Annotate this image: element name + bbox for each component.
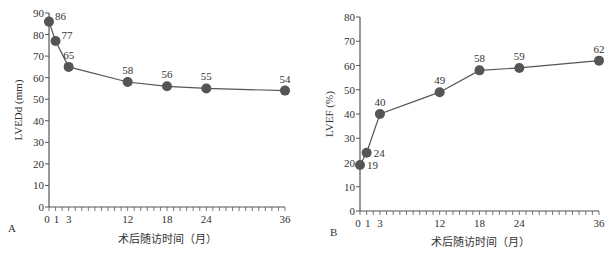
y-tick-label: 0 bbox=[350, 205, 356, 217]
data-point bbox=[362, 148, 372, 158]
y-tick-label: 70 bbox=[344, 35, 356, 47]
data-point bbox=[280, 86, 290, 96]
data-point bbox=[435, 87, 445, 97]
y-tick-label: 10 bbox=[344, 181, 356, 193]
data-line bbox=[360, 61, 599, 165]
panel-label: B bbox=[330, 226, 337, 238]
data-point bbox=[51, 36, 61, 46]
chart-panel-a: 0102030405060708090013121824368677655856… bbox=[8, 7, 291, 245]
data-point bbox=[475, 65, 485, 75]
x-tick-label: 1 bbox=[54, 213, 60, 225]
y-tick-label: 40 bbox=[344, 108, 356, 120]
x-tick-label: 0 bbox=[44, 213, 50, 225]
data-label: 19 bbox=[367, 159, 379, 171]
x-tick-label: 12 bbox=[122, 213, 133, 225]
y-tick-label: 90 bbox=[33, 7, 45, 19]
panel-label: A bbox=[8, 222, 16, 234]
y-tick-label: 70 bbox=[33, 50, 45, 62]
x-tick-label: 24 bbox=[514, 217, 526, 229]
x-tick-label: 24 bbox=[201, 213, 213, 225]
x-tick-label: 12 bbox=[434, 217, 445, 229]
data-point bbox=[64, 62, 74, 72]
y-tick-label: 60 bbox=[33, 72, 45, 84]
chart-panel-b: 0102030405060708001312182436192440495859… bbox=[323, 11, 605, 248]
x-tick-label: 3 bbox=[377, 217, 383, 229]
chart-canvas: 0102030405060708090013121824368677655856… bbox=[0, 0, 612, 259]
data-label: 54 bbox=[280, 73, 292, 85]
x-tick-label: 18 bbox=[162, 213, 174, 225]
y-tick-label: 80 bbox=[33, 29, 45, 41]
x-tick-label: 36 bbox=[594, 217, 606, 229]
data-label: 40 bbox=[374, 96, 386, 108]
y-tick-label: 40 bbox=[33, 115, 45, 127]
y-tick-label: 20 bbox=[33, 158, 45, 170]
x-tick-label: 18 bbox=[474, 217, 486, 229]
y-tick-label: 20 bbox=[344, 157, 356, 169]
data-label: 49 bbox=[434, 74, 446, 86]
data-point bbox=[123, 77, 133, 87]
data-point bbox=[201, 83, 211, 93]
data-label: 62 bbox=[594, 43, 605, 55]
data-label: 55 bbox=[201, 70, 213, 82]
data-label: 58 bbox=[122, 64, 134, 76]
data-label: 24 bbox=[374, 147, 386, 159]
data-label: 77 bbox=[62, 29, 74, 41]
y-axis-title: LVEDd (mm) bbox=[12, 79, 25, 140]
x-tick-label: 36 bbox=[280, 213, 292, 225]
data-point bbox=[514, 63, 524, 73]
y-tick-label: 30 bbox=[344, 132, 356, 144]
x-axis-title: 术后随访时间（月） bbox=[431, 235, 530, 248]
y-tick-label: 50 bbox=[344, 84, 356, 96]
x-tick-label: 3 bbox=[66, 213, 72, 225]
data-point bbox=[375, 109, 385, 119]
data-label: 65 bbox=[63, 49, 75, 61]
x-axis-title: 术后随访时间（月） bbox=[118, 232, 217, 245]
y-tick-label: 50 bbox=[33, 93, 45, 105]
y-tick-label: 0 bbox=[39, 201, 45, 213]
data-label: 58 bbox=[474, 52, 486, 64]
y-tick-label: 30 bbox=[33, 136, 45, 148]
data-point bbox=[594, 56, 604, 66]
x-tick-label: 1 bbox=[365, 217, 371, 229]
data-point bbox=[355, 160, 365, 170]
data-label: 56 bbox=[162, 68, 174, 80]
x-tick-label: 0 bbox=[355, 217, 361, 229]
y-tick-label: 10 bbox=[33, 179, 45, 191]
data-label: 59 bbox=[514, 50, 526, 62]
data-point bbox=[44, 17, 54, 27]
data-point bbox=[162, 81, 172, 91]
y-tick-label: 80 bbox=[344, 11, 356, 23]
y-axis-title: LVEF (%) bbox=[323, 91, 336, 137]
data-label: 86 bbox=[55, 10, 67, 22]
y-tick-label: 60 bbox=[344, 60, 356, 72]
